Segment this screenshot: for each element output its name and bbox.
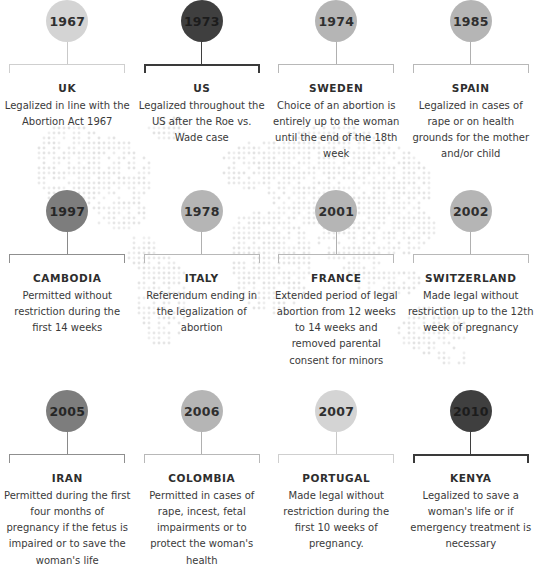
country-name: FRANCE [273, 271, 399, 287]
entry-description: Choice of an abortion is entirely up to … [273, 98, 399, 163]
bracket [9, 64, 125, 73]
connector-stem [470, 232, 471, 254]
country-name: CAMBODIA [4, 271, 130, 287]
entry-description: Made legal without restriction up to the… [408, 288, 534, 337]
bracket [278, 254, 394, 263]
entry-description: Extended period of legal abortion from 1… [273, 288, 399, 369]
year-bubble[interactable]: 1973 [181, 0, 223, 42]
country-name: SWITZERLAND [408, 271, 534, 287]
bracket [413, 64, 529, 73]
entry-text: UK Legalized in line with the Abortion A… [4, 73, 130, 130]
entry-description: Legalized in line with the Abortion Act … [4, 98, 130, 130]
connector-stem [470, 42, 471, 64]
entry-description: Permitted in cases of rape, incest, feta… [139, 488, 265, 566]
entry-text: FRANCE Extended period of legal abortion… [273, 263, 399, 369]
timeline-entry-uk[interactable]: 1967 UK Legalized in line with the Abort… [0, 0, 135, 190]
year-bubble[interactable]: 1997 [46, 190, 88, 232]
entry-text: KENYA Legalized to save a woman's life o… [408, 463, 534, 553]
country-name: ITALY [139, 271, 265, 287]
year-bubble[interactable]: 1967 [46, 0, 88, 42]
connector-stem [336, 42, 337, 64]
year-bubble[interactable]: 1985 [450, 0, 492, 42]
entry-text: SPAIN Legalized in cases of rape or on h… [408, 73, 534, 163]
entry-description: Made legal without restriction during th… [273, 488, 399, 553]
year-bubble[interactable]: 2006 [181, 390, 223, 432]
entry-text: IRAN Permitted during the first four mon… [4, 463, 130, 566]
connector-stem [470, 432, 471, 454]
bracket [278, 454, 394, 463]
country-name: COLOMBIA [139, 471, 265, 487]
timeline-row: 1967 UK Legalized in line with the Abort… [0, 0, 538, 190]
timeline-entry-colombia[interactable]: 2006 COLOMBIA Permitted in cases of rape… [135, 390, 270, 566]
timeline-entry-cambodia[interactable]: 1997 CAMBODIA Permitted without restrict… [0, 190, 135, 390]
entry-text: SWITZERLAND Made legal without restricti… [408, 263, 534, 336]
connector-stem [67, 232, 68, 254]
timeline-entry-switzerland[interactable]: 2002 SWITZERLAND Made legal without rest… [404, 190, 538, 390]
connector-stem [201, 232, 202, 254]
bracket [413, 254, 529, 263]
connector-stem [336, 232, 337, 254]
entry-description: Permitted without restriction during the… [4, 288, 130, 337]
entry-description: Permitted during the first four months o… [4, 488, 130, 566]
bracket [144, 64, 260, 73]
year-bubble[interactable]: 2005 [46, 390, 88, 432]
entry-text: PORTUGAL Made legal without restriction … [273, 463, 399, 553]
year-bubble[interactable]: 2002 [450, 190, 492, 232]
timeline-entry-sweden[interactable]: 1974 SWEDEN Choice of an abortion is ent… [269, 0, 404, 190]
timeline-entry-portugal[interactable]: 2007 PORTUGAL Made legal without restric… [269, 390, 404, 566]
entry-text: US Legalized throughout the US after the… [139, 73, 265, 146]
country-name: SWEDEN [273, 81, 399, 97]
timeline-entry-france[interactable]: 2001 FRANCE Extended period of legal abo… [269, 190, 404, 390]
connector-stem [201, 432, 202, 454]
year-bubble[interactable]: 1974 [315, 0, 357, 42]
year-bubble[interactable]: 2007 [315, 390, 357, 432]
year-bubble[interactable]: 2001 [315, 190, 357, 232]
bracket [9, 454, 125, 463]
connector-stem [67, 432, 68, 454]
entry-text: COLOMBIA Permitted in cases of rape, inc… [139, 463, 265, 566]
connector-stem [336, 432, 337, 454]
entry-description: Legalized to save a woman's life or if e… [408, 488, 534, 553]
connector-stem [67, 42, 68, 64]
timeline-row: 2005 IRAN Permitted during the first fou… [0, 390, 538, 566]
year-bubble[interactable]: 1978 [181, 190, 223, 232]
country-name: IRAN [4, 471, 130, 487]
bracket [144, 254, 260, 263]
entry-text: ITALY Referendum ending in the legalizat… [139, 263, 265, 336]
country-name: UK [4, 81, 130, 97]
year-bubble[interactable]: 2010 [450, 390, 492, 432]
connector-stem [201, 42, 202, 64]
timeline-entry-spain[interactable]: 1985 SPAIN Legalized in cases of rape or… [404, 0, 538, 190]
country-name: PORTUGAL [273, 471, 399, 487]
bracket [9, 254, 125, 263]
entry-description: Legalized in cases of rape or on health … [408, 98, 534, 163]
entry-description: Referendum ending in the legalization of… [139, 288, 265, 337]
abortion-legalization-timeline: 1967 UK Legalized in line with the Abort… [0, 0, 538, 566]
bracket [278, 64, 394, 73]
timeline-entry-iran[interactable]: 2005 IRAN Permitted during the first fou… [0, 390, 135, 566]
country-name: SPAIN [408, 81, 534, 97]
country-name: KENYA [408, 471, 534, 487]
timeline-row: 1997 CAMBODIA Permitted without restrict… [0, 190, 538, 390]
entry-description: Legalized throughout the US after the Ro… [139, 98, 265, 147]
bracket [144, 454, 260, 463]
country-name: US [139, 81, 265, 97]
timeline-entry-kenya[interactable]: 2010 KENYA Legalized to save a woman's l… [404, 390, 538, 566]
entry-text: SWEDEN Choice of an abortion is entirely… [273, 73, 399, 163]
entry-text: CAMBODIA Permitted without restriction d… [4, 263, 130, 336]
timeline-entry-us[interactable]: 1973 US Legalized throughout the US afte… [135, 0, 270, 190]
bracket [413, 454, 529, 463]
timeline-entry-italy[interactable]: 1978 ITALY Referendum ending in the lega… [135, 190, 270, 390]
